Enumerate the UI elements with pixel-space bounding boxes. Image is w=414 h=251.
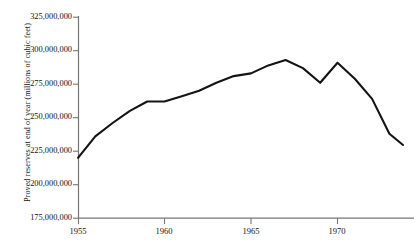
chart-figure: Proved reserves at end of year (millions… xyxy=(0,0,414,251)
y-axis-ticks xyxy=(73,17,79,218)
x-tick-label: 1955 xyxy=(58,227,98,236)
x-tick-label: 1960 xyxy=(144,227,184,236)
axis-lines xyxy=(78,16,414,219)
x-tick-label: 1965 xyxy=(231,227,271,236)
x-axis-ticks xyxy=(79,218,338,224)
x-tick-label: 1970 xyxy=(317,227,357,236)
plot-area xyxy=(0,0,414,251)
data-line-proved-reserves xyxy=(78,60,403,158)
